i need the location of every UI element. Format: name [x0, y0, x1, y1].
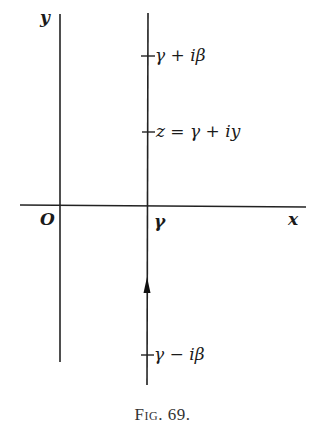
figure-caption: Fig. 69.	[0, 405, 325, 425]
arrow-up-icon	[144, 277, 151, 293]
x-axis-line	[20, 205, 306, 207]
gamma-label: γ	[154, 213, 165, 230]
upper-point-label: γ + iβ	[155, 47, 205, 64]
y-axis-label: y	[40, 9, 50, 26]
x-axis-label: x	[288, 211, 298, 228]
general-point-label: z = γ + iy	[156, 123, 240, 140]
contour-line	[147, 13, 148, 385]
figure-69: y x O γ γ + iβ z = γ + iy γ − iβ Fig. 69…	[0, 0, 325, 431]
lower-point-label: γ − iβ	[154, 346, 204, 363]
origin-label: O	[40, 211, 55, 228]
